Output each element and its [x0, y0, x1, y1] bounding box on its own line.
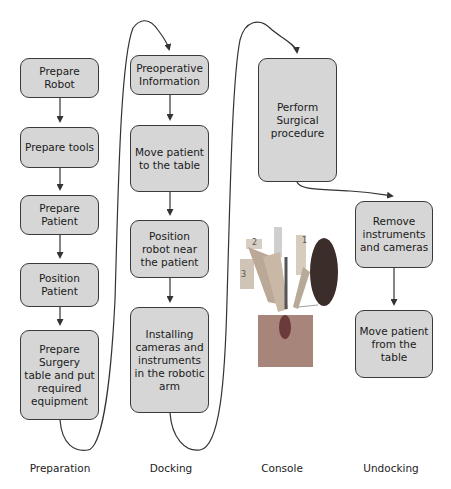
- step-move-patient-from-table: Move patient from the table: [355, 310, 433, 378]
- phase-label-undocking: Undocking: [346, 462, 436, 474]
- step-position-robot: Position robot near the patient: [130, 220, 209, 278]
- step-move-patient-to-table: Move patient to the table: [130, 125, 209, 192]
- step-text: Position robot near the patient: [134, 230, 205, 269]
- step-prepare-patient: Prepare Patient: [20, 195, 99, 235]
- step-installing-cameras: Installing cameras and instruments in th…: [130, 307, 209, 413]
- step-perform-surgical-procedure: Perform Surgical procedure: [258, 58, 337, 182]
- step-text: Remove instruments and cameras: [359, 215, 429, 254]
- surgical-robot-image: 2 1 3: [238, 227, 343, 367]
- step-position-patient: Position Patient: [20, 263, 99, 307]
- arm-label-2: 2: [252, 238, 257, 247]
- step-text: Perform Surgical procedure: [262, 101, 333, 140]
- step-text: Move patient from the table: [359, 325, 429, 364]
- step-prepare-robot: Prepare Robot: [20, 58, 99, 98]
- step-text: Installing cameras and instruments in th…: [134, 328, 205, 393]
- phase-label-docking: Docking: [126, 462, 216, 474]
- arm-label-3: 3: [241, 270, 246, 279]
- step-text: Prepare Surgery table and put required e…: [24, 343, 95, 408]
- phase-label-preparation: Preparation: [15, 462, 105, 474]
- step-prepare-surgery-table: Prepare Surgery table and put required e…: [20, 330, 99, 420]
- step-text: Prepare Robot: [24, 65, 95, 91]
- step-prepare-tools: Prepare tools: [20, 127, 99, 168]
- arm-label-1: 1: [302, 236, 307, 245]
- step-text: Prepare Patient: [24, 202, 95, 228]
- step-preoperative-information: Preoperative Information: [130, 55, 209, 95]
- step-text: Preoperative Information: [134, 62, 205, 88]
- step-remove-instruments: Remove instruments and cameras: [355, 201, 433, 268]
- step-text: Move patient to the table: [134, 146, 205, 172]
- step-text: Prepare tools: [25, 141, 94, 154]
- step-text: Position Patient: [24, 272, 95, 298]
- phase-label-console: Console: [237, 462, 327, 474]
